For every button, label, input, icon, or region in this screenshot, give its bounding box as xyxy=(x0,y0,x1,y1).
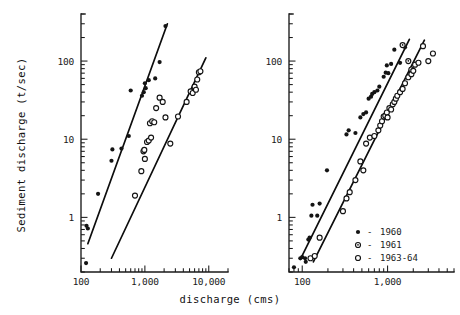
data-point-1960 xyxy=(353,131,357,135)
data-point-1963-64 xyxy=(372,133,377,138)
legend-dash: - xyxy=(367,253,372,263)
axis-lines xyxy=(81,14,228,272)
regression-line xyxy=(111,58,205,258)
data-point-1960 xyxy=(303,256,307,260)
data-point-1960 xyxy=(318,202,322,206)
data-point-1963-64 xyxy=(312,254,317,259)
data-point-1963-64 xyxy=(154,106,159,111)
data-point-1960 xyxy=(364,110,368,114)
y-axis-tick-label: 10 xyxy=(271,134,283,145)
chart-panel-left: 1101001001,00010,000 xyxy=(0,0,232,315)
data-point-1960 xyxy=(96,192,100,196)
figure: 1101001001,00010,000 1101001001,000-1960… xyxy=(0,0,460,315)
data-point-1963-64 xyxy=(421,44,426,49)
data-point-1960 xyxy=(398,61,402,65)
data-point-1960 xyxy=(142,90,146,94)
y-axis-tick-label: 100 xyxy=(57,56,74,67)
data-point-1963-64 xyxy=(142,147,147,152)
data-point-1960 xyxy=(347,128,351,132)
data-point-1963-64 xyxy=(430,51,435,56)
legend-label-1960: 1960 xyxy=(380,227,402,237)
data-point-1960 xyxy=(307,236,311,240)
legend-dash: - xyxy=(367,240,372,250)
data-point-1961-core xyxy=(402,44,404,46)
data-point-1960 xyxy=(358,115,362,119)
legend-dash: - xyxy=(367,227,372,237)
chart-panel-right: 1101001001,000-1960-1961-1963-64 xyxy=(228,0,460,315)
data-point-1963-64 xyxy=(168,141,173,146)
data-point-1963-64 xyxy=(132,193,137,198)
data-point-1963-64 xyxy=(340,209,345,214)
data-point-1963-64 xyxy=(358,159,363,164)
data-point-1960 xyxy=(86,226,90,230)
data-point-1963-64 xyxy=(364,141,369,146)
data-point-1963-64 xyxy=(356,256,361,261)
y-axis-tick-label: 1 xyxy=(276,212,282,223)
data-point-1960 xyxy=(356,230,360,234)
data-point-1960 xyxy=(109,159,113,163)
legend-label-1961: 1961 xyxy=(380,240,402,250)
data-point-1960 xyxy=(382,75,386,79)
data-point-1961-core xyxy=(357,244,359,246)
legend-label-1963-64: 1963-64 xyxy=(380,253,418,263)
data-point-1963-64 xyxy=(347,190,352,195)
data-point-1963-64 xyxy=(139,169,144,174)
data-point-1963-64 xyxy=(426,59,431,64)
data-point-1963-64 xyxy=(361,168,366,173)
data-point-1960 xyxy=(144,86,148,90)
data-point-1960 xyxy=(310,203,314,207)
data-point-1963-64 xyxy=(376,128,381,133)
data-point-1960 xyxy=(153,76,157,80)
data-point-1960 xyxy=(110,147,114,151)
data-point-1960 xyxy=(84,261,88,265)
legend: -1960-1961-1963-64 xyxy=(356,227,418,263)
data-point-1963-64 xyxy=(152,120,157,125)
x-axis-tick-label: 10,000 xyxy=(192,276,226,287)
data-point-1963-64 xyxy=(198,69,203,74)
data-point-1963-64 xyxy=(411,68,416,73)
data-point-1963-64 xyxy=(344,196,349,201)
data-point-1960 xyxy=(392,48,396,52)
data-point-1960 xyxy=(386,71,390,75)
data-point-1960 xyxy=(315,214,319,218)
x-axis-tick-label: 1,000 xyxy=(131,276,159,287)
data-point-1960 xyxy=(129,88,133,92)
data-point-1963-64 xyxy=(195,77,200,82)
data-point-1960 xyxy=(325,168,329,172)
data-point-1963-64 xyxy=(416,60,421,65)
data-point-1963-64 xyxy=(142,156,147,161)
data-point-1960 xyxy=(375,88,379,92)
data-point-1960 xyxy=(127,134,131,138)
y-axis-tick-label: 1 xyxy=(68,212,74,223)
x-axis-tick-label: 1,000 xyxy=(374,276,402,287)
data-point-1960 xyxy=(385,63,389,67)
data-point-1963-64 xyxy=(193,87,198,92)
data-point-1960 xyxy=(163,24,167,28)
y-axis-title: Sediment discharge (t/sec) xyxy=(15,20,27,270)
data-point-1963-64 xyxy=(385,115,390,120)
x-axis-tick-label: 100 xyxy=(73,276,90,287)
data-point-1963-64 xyxy=(163,115,168,120)
data-point-1963-64 xyxy=(160,99,165,104)
plot-area-left: 1101001001,00010,000 xyxy=(0,0,232,292)
x-axis-title: discharge (cms) xyxy=(0,293,460,305)
series-1963-64 xyxy=(132,69,202,198)
y-axis-tick-label: 10 xyxy=(63,134,75,145)
data-point-1963-64 xyxy=(317,235,322,240)
data-point-1963-64 xyxy=(353,178,358,183)
regression-line xyxy=(88,24,168,244)
x-axis-tick-label: 100 xyxy=(294,276,311,287)
data-point-1960 xyxy=(344,132,348,136)
data-point-1960 xyxy=(292,265,296,269)
data-point-1960 xyxy=(143,81,147,85)
data-point-1960 xyxy=(389,62,393,66)
data-point-1963-64 xyxy=(389,107,394,112)
data-point-1960 xyxy=(119,146,123,150)
data-point-1960 xyxy=(377,85,381,89)
data-point-1960 xyxy=(140,94,144,98)
y-axis-tick-label: 100 xyxy=(265,56,282,67)
data-point-1963-64 xyxy=(149,135,154,140)
data-point-1963-64 xyxy=(403,81,408,86)
data-point-1961-core xyxy=(407,60,409,62)
data-point-1960 xyxy=(147,78,151,82)
